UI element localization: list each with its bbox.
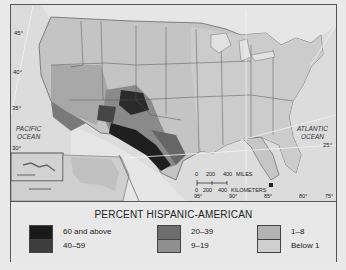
longitude-label-95: 95° [194, 193, 202, 199]
legend-swatch-20-39 [157, 225, 181, 239]
legend-label-40-59: 40–59 [63, 241, 85, 250]
legend-swatch-40-59 [29, 239, 53, 253]
latitude-label-30: 30° [12, 145, 21, 151]
legend-swatch-60-plus [29, 225, 53, 239]
latitude-label-40: 40° [13, 69, 22, 75]
pacific-ocean-label: PACIFIC OCEAN [16, 125, 41, 141]
longitude-label-80: 80° [299, 193, 307, 199]
legend-swatch-below-1 [257, 239, 281, 253]
atlantic-ocean-label: ATLANTIC OCEAN [297, 125, 328, 141]
legend-label-60-plus: 60 and above [63, 227, 112, 236]
latitude-label-35: 35° [12, 105, 21, 111]
legend-label-1-8: 1–8 [291, 227, 304, 236]
legend-swatch-1-8 [257, 225, 281, 239]
latitude-label-45: 45° [14, 30, 23, 36]
longitude-label-85: 85° [264, 193, 272, 199]
longitude-label-90: 90° [229, 193, 237, 199]
legend-label-below-1: Below 1 [291, 241, 319, 250]
legend-swatch-9-19 [157, 239, 181, 253]
legend-label-20-39: 20–39 [191, 227, 213, 236]
us-county-map: 45° 40° 35° 30° 25° PACIFIC OCEAN ATLANT… [11, 5, 336, 201]
map-figure: 45° 40° 35° 30° 25° PACIFIC OCEAN ATLANT… [10, 4, 337, 262]
legend-title: PERCENT HISPANIC-AMERICAN [11, 209, 336, 220]
latitude-label-25: 25° [323, 142, 332, 148]
map-graphic [11, 5, 336, 201]
legend: PERCENT HISPANIC-AMERICAN 60 and above 4… [11, 201, 336, 262]
legend-label-9-19: 9–19 [191, 241, 209, 250]
longitude-label-75: 75° [325, 193, 333, 199]
